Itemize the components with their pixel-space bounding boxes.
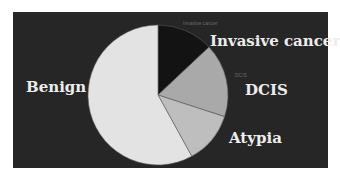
invasive-cancer-label: Invasive cancer bbox=[210, 34, 340, 49]
pie-slices bbox=[88, 25, 228, 165]
benign-label: Benign bbox=[26, 80, 86, 95]
dcis-small-label: DCIS bbox=[235, 73, 247, 78]
atypia-label: Atypia bbox=[229, 131, 282, 146]
invasive-cancer-small-label: Invasive cancer bbox=[183, 21, 218, 26]
dcis-label: DCIS bbox=[245, 83, 288, 98]
